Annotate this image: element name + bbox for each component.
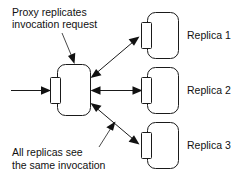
- bottom-annotation-leader: [99, 122, 116, 148]
- top-annotation-leader: [62, 33, 75, 64]
- replica-3-label: Replica 3: [187, 139, 231, 151]
- replica-2-port: [142, 78, 152, 104]
- replica-1-port: [142, 23, 152, 49]
- proxy-node[interactable]: [51, 65, 91, 116]
- replica-1-node[interactable]: [142, 13, 179, 59]
- replica-3-port: [142, 133, 152, 159]
- proxy-replica3-arrow: [91, 103, 140, 145]
- replication-diagram: Replica 1 Replica 2 Replica 3 Proxy repl…: [0, 0, 241, 180]
- replica-3-node[interactable]: [142, 123, 179, 169]
- replica-2-node[interactable]: [142, 68, 179, 114]
- replica-1-label: Replica 1: [187, 29, 231, 41]
- proxy-port: [51, 78, 61, 104]
- bottom-annotation-line-2: the same invocation: [12, 159, 106, 171]
- replica-2-label: Replica 2: [187, 84, 231, 96]
- proxy-replica2-arrow: [91, 86, 143, 95]
- bottom-annotation-line-1: All replicas see: [12, 146, 83, 158]
- top-annotation-line-2: invocation request: [12, 18, 97, 30]
- top-annotation-line-1: Proxy replicates: [12, 6, 87, 18]
- client-request-arrow: [11, 86, 51, 95]
- diagram-canvas: Replica 1 Replica 2 Replica 3 Proxy repl…: [0, 0, 241, 180]
- proxy-replica1-arrow: [91, 37, 140, 79]
